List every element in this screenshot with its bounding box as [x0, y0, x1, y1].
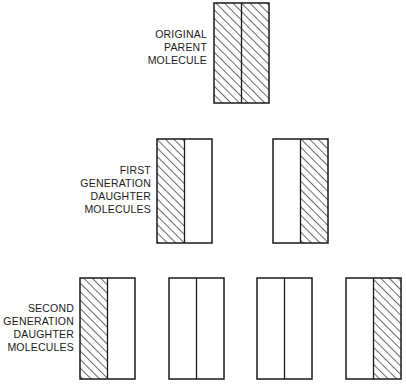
- first-generation-label-line: MOLECULES: [80, 203, 151, 216]
- second-generation-label-line: DAUGHTER: [3, 328, 74, 341]
- left-strand-old: [157, 139, 185, 243]
- second-generation-molecule: [257, 278, 312, 379]
- second-generation-label-line: SECOND: [3, 302, 74, 315]
- first-generation-label-line: GENERATION: [80, 177, 151, 190]
- right-strand-old: [301, 139, 329, 243]
- right-strand-new: [197, 278, 225, 379]
- first-generation-label-line: FIRST: [80, 164, 151, 177]
- parent-label: ORIGINAL PARENT MOLECULE: [148, 28, 207, 67]
- parent-label-line: ORIGINAL: [148, 28, 207, 41]
- right-strand-old: [242, 3, 270, 103]
- first-generation-molecule: [273, 139, 328, 243]
- second-generation-label-line: MOLECULES: [3, 341, 74, 354]
- left-strand-old: [214, 3, 242, 103]
- second-generation-label: SECOND GENERATION DAUGHTER MOLECULES: [3, 302, 74, 354]
- right-strand-new: [108, 278, 136, 379]
- second-generation-molecule: [169, 278, 224, 379]
- first-generation-label-line: DAUGHTER: [80, 190, 151, 203]
- right-strand-old: [374, 278, 402, 379]
- first-generation-molecule: [157, 139, 212, 243]
- parent-label-line: PARENT: [148, 41, 207, 54]
- second-generation-molecule: [346, 278, 401, 379]
- first-generation-label: FIRST GENERATION DAUGHTER MOLECULES: [80, 164, 151, 216]
- left-strand-new: [273, 139, 301, 243]
- right-strand-new: [285, 278, 313, 379]
- parent-molecule: [214, 3, 269, 103]
- left-strand-new: [257, 278, 285, 379]
- left-strand-old: [80, 278, 108, 379]
- parent-label-line: MOLECULE: [148, 54, 207, 67]
- second-generation-label-line: GENERATION: [3, 315, 74, 328]
- left-strand-new: [169, 278, 197, 379]
- left-strand-new: [346, 278, 374, 379]
- second-generation-molecule: [80, 278, 135, 379]
- right-strand-new: [185, 139, 213, 243]
